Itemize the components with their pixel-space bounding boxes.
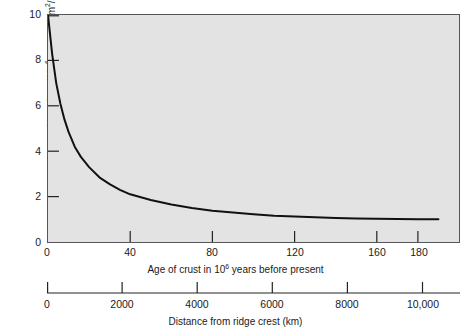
distance-axis-canvas bbox=[47, 281, 460, 295]
distance-tick-label-2000: 2000 bbox=[94, 298, 150, 310]
chart-figure: 10 8 6 4 2 0 Heat flow (10−6 calories/cm… bbox=[0, 0, 471, 334]
y-tick-label-6: 6 bbox=[19, 99, 41, 111]
distance-tick-label-6000: 6000 bbox=[244, 298, 300, 310]
plot-area bbox=[47, 14, 460, 243]
y-tick-label-2: 2 bbox=[19, 190, 41, 202]
y-tick-label-8: 8 bbox=[19, 53, 41, 65]
distance-tick-label-10000: 10,000 bbox=[395, 298, 451, 310]
distance-axis-title: Distance from ridge crest (km) bbox=[0, 316, 471, 327]
age-tick-label-40: 40 bbox=[110, 246, 150, 258]
y-axis-title-exponent2: 2 bbox=[44, 3, 51, 7]
age-tick-label-160: 160 bbox=[357, 246, 397, 258]
plot-canvas bbox=[48, 15, 459, 242]
y-axis-ticks bbox=[48, 16, 59, 197]
age-axis-title: Age of crust in 106 years before present bbox=[0, 264, 471, 275]
distance-tick-label-8000: 8000 bbox=[319, 298, 375, 310]
distance-tick-label-4000: 4000 bbox=[169, 298, 225, 310]
distance-tick-label-0: 0 bbox=[19, 298, 75, 310]
distance-axis bbox=[47, 292, 460, 293]
age-tick-label-180: 180 bbox=[399, 246, 439, 258]
y-tick-label-4: 4 bbox=[19, 145, 41, 157]
age-tick-label-80: 80 bbox=[192, 246, 232, 258]
age-tick-label-0: 0 bbox=[44, 246, 50, 258]
y-axis-title-tail: /s) bbox=[46, 0, 57, 3]
age-axis-title-suffix: years before present bbox=[229, 264, 324, 275]
y-tick-label-0: 0 bbox=[19, 236, 41, 248]
heat-flow-curve bbox=[48, 15, 438, 219]
distance-axis-ticks bbox=[48, 282, 423, 293]
y-tick-label-10: 10 bbox=[19, 8, 41, 20]
age-tick-label-120: 120 bbox=[275, 246, 315, 258]
age-axis-ticks bbox=[130, 231, 418, 242]
age-axis-title-prefix: Age of crust in 10 bbox=[147, 264, 225, 275]
